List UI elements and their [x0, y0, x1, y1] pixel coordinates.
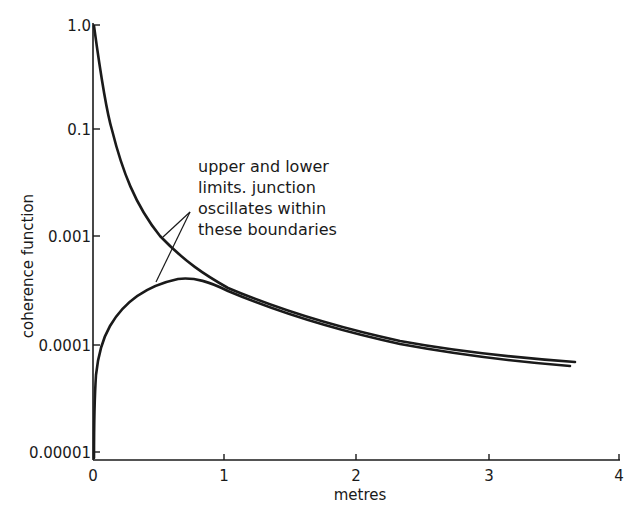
- x-tick-label: 3: [484, 467, 494, 485]
- x-tick-label: 4: [614, 467, 624, 485]
- x-tick-label: 2: [351, 467, 361, 485]
- y-tick-label: 0.0001: [39, 337, 92, 355]
- y-axis-label: coherence function: [19, 194, 37, 338]
- leader-to-lower-curve: [156, 212, 190, 282]
- lower-limit-curve: [94, 279, 570, 458]
- annotation-text: upper and lower limits. junction oscilla…: [198, 157, 337, 239]
- y-tick-label: 0.00001: [29, 444, 91, 462]
- leader-to-upper-curve: [163, 212, 190, 237]
- annotation-line: oscillates within: [198, 199, 326, 218]
- upper-limit-curve: [94, 26, 575, 362]
- x-tick-labels: 0 1 2 3 4: [88, 467, 624, 485]
- annotation-line: these boundaries: [198, 220, 337, 239]
- coherence-chart: 1.0 0.1 0.001 0.0001 0.00001 0 1 2 3 4 m…: [0, 0, 638, 518]
- annotation-line: upper and lower: [198, 157, 329, 176]
- annotation-line: limits. junction: [198, 178, 316, 197]
- y-tick-label: 0.001: [48, 228, 91, 246]
- x-ticks: [224, 454, 619, 460]
- y-tick-label: 0.1: [67, 121, 91, 139]
- x-tick-label: 1: [219, 467, 229, 485]
- annotation-leaders: [156, 212, 190, 282]
- y-tick-label: 1.0: [67, 17, 91, 35]
- curves: [94, 26, 575, 458]
- x-tick-label: 0: [88, 467, 98, 485]
- y-tick-labels: 1.0 0.1 0.001 0.0001 0.00001: [29, 17, 91, 462]
- x-axis-label: metres: [334, 486, 387, 504]
- axes: [93, 23, 620, 460]
